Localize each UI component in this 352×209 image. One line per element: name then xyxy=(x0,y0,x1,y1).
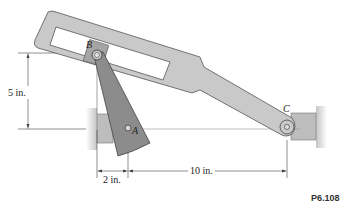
left-wall xyxy=(86,108,97,150)
right-wall xyxy=(316,106,327,148)
right-support xyxy=(291,106,327,148)
dim-10in: 10 in. xyxy=(190,165,213,176)
pin-c-inner xyxy=(285,125,290,130)
label-c: C xyxy=(283,103,290,114)
label-a: A xyxy=(131,125,139,136)
dim-5in: 5 in. xyxy=(8,87,26,98)
dim-2in: 2 in. xyxy=(103,174,121,185)
pin-b-inner xyxy=(95,53,100,58)
label-b: B xyxy=(86,39,92,50)
figure-number: P6.108 xyxy=(311,193,340,203)
mechanism-diagram: B A C 5 in. 2 in. 10 in. P6.108 xyxy=(0,0,352,209)
slotted-member xyxy=(34,11,295,136)
pin-a xyxy=(125,125,131,131)
